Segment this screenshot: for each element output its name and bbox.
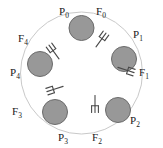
philosopher-p3[interactable]: [43, 100, 68, 125]
fork-label-f2: F2: [92, 131, 102, 146]
philosopher-p1[interactable]: [112, 47, 137, 72]
fork-label-f4: F4: [18, 32, 28, 47]
figure-canvas: P0P1P2P3P4F0F1F2F3F4: [0, 0, 163, 148]
philosopher-p2[interactable]: [106, 98, 131, 123]
fork-label-f3: F3: [12, 105, 22, 120]
philosopher-label-p1: P1: [133, 28, 143, 43]
philosopher-label-p3: P3: [58, 131, 68, 146]
dining-philosophers-diagram: P0P1P2P3P4F0F1F2F3F4: [0, 0, 163, 148]
philosopher-p0[interactable]: [69, 16, 94, 41]
philosopher-p4[interactable]: [28, 52, 53, 77]
philosopher-label-p4: P4: [10, 66, 20, 81]
philosopher-label-p2: P2: [130, 114, 140, 129]
